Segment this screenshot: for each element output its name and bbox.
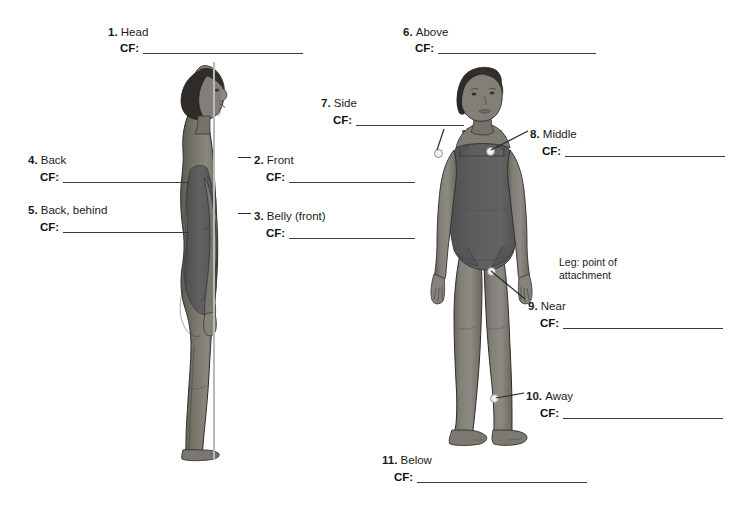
label-2-text: Front xyxy=(267,154,294,166)
leg-note-line1: Leg: point of xyxy=(559,256,617,269)
label-4-text: Back xyxy=(41,154,67,166)
label-8-text: Middle xyxy=(543,128,577,140)
cf-prefix-11: CF: xyxy=(394,471,413,483)
cf-blank-2[interactable] xyxy=(289,171,415,183)
label-5-text: Back, behind xyxy=(41,204,108,216)
label-9-text: Near xyxy=(541,300,566,312)
cf-blank-3[interactable] xyxy=(289,227,415,239)
label-1-head: 1. Head xyxy=(108,22,148,40)
cf-row-8[interactable]: CF: xyxy=(542,145,725,157)
label-2-number: 2. xyxy=(254,154,267,166)
label-1-number: 1. xyxy=(108,26,121,38)
cf-row-11[interactable]: CF: xyxy=(394,471,587,483)
cf-prefix-5: CF: xyxy=(40,221,59,233)
label-3-belly: 3. Belly (front) xyxy=(254,206,326,224)
label-1-text: Head xyxy=(121,26,149,38)
cf-blank-8[interactable] xyxy=(565,145,725,157)
leader-dash-front xyxy=(238,157,251,158)
cf-row-5[interactable]: CF: xyxy=(40,221,189,233)
cf-row-7[interactable]: CF: xyxy=(333,114,464,126)
label-8-number: 8. xyxy=(530,128,543,140)
cf-prefix-10: CF: xyxy=(540,407,559,419)
cf-row-10[interactable]: CF: xyxy=(540,407,723,419)
label-7-text: Side xyxy=(334,97,357,109)
label-11-text: Below xyxy=(401,454,432,466)
label-9-near: 9. Near xyxy=(528,296,566,314)
cf-prefix-8: CF: xyxy=(542,145,561,157)
label-10-away: 10. Away xyxy=(526,386,573,404)
cf-prefix-4: CF: xyxy=(40,171,59,183)
label-6-number: 6. xyxy=(403,26,416,38)
cf-row-2[interactable]: CF: xyxy=(266,171,415,183)
leader-dash-belly xyxy=(238,213,251,214)
label-10-number: 10. xyxy=(526,390,545,402)
cf-prefix-6: CF: xyxy=(415,42,434,54)
cf-blank-6[interactable] xyxy=(438,42,596,54)
cf-prefix-1: CF: xyxy=(120,42,139,54)
label-5-number: 5. xyxy=(28,204,41,216)
label-2-front: 2. Front xyxy=(254,150,294,168)
cf-blank-9[interactable] xyxy=(563,317,723,329)
label-3-number: 3. xyxy=(254,210,267,222)
cf-row-3[interactable]: CF: xyxy=(266,227,415,239)
cf-row-1[interactable]: CF: xyxy=(120,42,303,54)
label-11-below: 11. Below xyxy=(382,450,432,468)
cf-prefix-2: CF: xyxy=(266,171,285,183)
cf-blank-1[interactable] xyxy=(143,42,303,54)
label-4-back: 4. Back xyxy=(28,150,66,168)
label-9-number: 9. xyxy=(528,300,541,312)
label-5-back-behind: 5. Back, behind xyxy=(28,200,107,218)
label-4-number: 4. xyxy=(28,154,41,166)
cf-blank-5[interactable] xyxy=(63,221,189,233)
label-6-text: Above xyxy=(416,26,449,38)
worksheet-page: 1. Head CF: 2. Front CF: 3. Belly (front… xyxy=(0,0,732,509)
cf-row-4[interactable]: CF: xyxy=(40,171,189,183)
cf-blank-10[interactable] xyxy=(563,407,723,419)
label-6-above: 6. Above xyxy=(403,22,448,40)
cf-blank-4[interactable] xyxy=(63,171,189,183)
label-7-number: 7. xyxy=(321,97,334,109)
cf-row-6[interactable]: CF: xyxy=(415,42,596,54)
cf-blank-7[interactable] xyxy=(356,114,464,126)
cf-row-9[interactable]: CF: xyxy=(540,317,723,329)
cf-blank-11[interactable] xyxy=(417,471,587,483)
cf-prefix-7: CF: xyxy=(333,114,352,126)
leg-note-line2: attachment xyxy=(559,269,617,282)
label-11-number: 11. xyxy=(382,454,401,466)
cf-prefix-3: CF: xyxy=(266,227,285,239)
label-7-side: 7. Side xyxy=(321,93,357,111)
cf-prefix-9: CF: xyxy=(540,317,559,329)
leader-lines xyxy=(0,0,732,509)
label-10-text: Away xyxy=(545,390,573,402)
label-8-middle: 8. Middle xyxy=(530,124,577,142)
label-3-text: Belly (front) xyxy=(267,210,326,222)
leg-attachment-note: Leg: point of attachment xyxy=(559,256,617,281)
